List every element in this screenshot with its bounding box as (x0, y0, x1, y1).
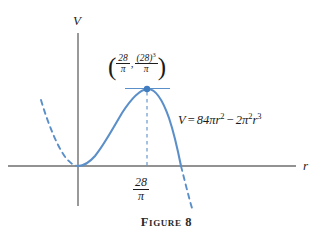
paren-open: ( (108, 53, 116, 80)
peak-x-fraction: 28π (116, 53, 130, 75)
peak-y-denominator: π (135, 64, 158, 75)
x-tick-label: 28π (133, 176, 149, 203)
curve-dashed-left (41, 100, 78, 166)
equation-operator: − (225, 113, 236, 127)
equation-term1-exponent: 2 (220, 111, 224, 121)
plot-canvas (0, 0, 333, 246)
equation-equals: = (186, 113, 197, 127)
maximum-point-label: (28π,(28)3π) (108, 52, 166, 79)
peak-x-numerator: 28 (116, 53, 130, 64)
peak-y-numerator: (28)3 (135, 52, 158, 64)
x-tick-fraction: 28π (133, 176, 149, 203)
equation-term1-coefficient: 84 (197, 113, 210, 127)
equation-term2-exponent: 3 (257, 111, 261, 121)
curve-solid (78, 89, 181, 166)
peak-y-numerator-exponent: 3 (152, 51, 155, 58)
curve-dashed-right (181, 166, 193, 211)
x-tick-denominator: π (133, 190, 149, 203)
figure-caption: Figure 8 (0, 216, 333, 229)
x-tick-numerator: 28 (133, 176, 149, 190)
peak-y-fraction: (28)3π (135, 52, 158, 75)
paren-close: ) (158, 53, 166, 80)
curve-equation-label: V=84πr2−2π2r3 (178, 112, 262, 127)
maximum-point-dot (144, 86, 150, 92)
figure-container: V r (28π,(28)3π) V=84πr2−2π2r3 28π Figur… (0, 0, 333, 246)
y-axis-label: V (73, 14, 81, 27)
peak-y-numerator-base: (28) (137, 53, 153, 63)
x-axis-label: r (303, 159, 308, 172)
peak-x-denominator: π (116, 64, 130, 75)
equation-lhs: V (178, 113, 186, 127)
